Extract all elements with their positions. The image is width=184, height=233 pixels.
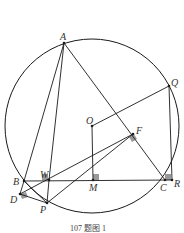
label-F: F xyxy=(135,125,143,136)
label-M: M xyxy=(88,182,98,193)
segment-WP xyxy=(47,180,49,203)
segment-AB xyxy=(24,43,64,181)
segment-BP xyxy=(24,181,47,203)
segment-FD xyxy=(20,134,133,194)
label-R: R xyxy=(173,178,180,189)
label-P: P xyxy=(39,204,46,215)
label-D: D xyxy=(9,194,18,205)
label-O: O xyxy=(86,115,93,126)
segment-OM xyxy=(92,126,93,180)
label-B: B xyxy=(13,176,19,187)
label-C: C xyxy=(160,182,167,193)
label-A: A xyxy=(59,31,67,42)
segment-OQ xyxy=(92,86,169,126)
geometry-figure: A Q O F B W M C R D P 107 题图 1 xyxy=(0,0,184,233)
label-W: W xyxy=(40,169,50,180)
segment-AW xyxy=(49,43,64,180)
figure-caption: 107 题图 1 xyxy=(70,224,106,233)
label-Q: Q xyxy=(171,77,179,88)
segment-AC xyxy=(64,43,165,180)
segment-DP xyxy=(20,194,47,203)
point-labels: A Q O F B W M C R D P xyxy=(9,31,180,215)
